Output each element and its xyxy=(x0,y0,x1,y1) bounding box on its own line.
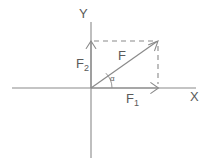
vector-diagram: Y X F F1 F2 α xyxy=(0,0,211,167)
f1-vector xyxy=(91,83,159,94)
f1-vector-label: F1 xyxy=(126,92,139,105)
f1-vector-label-subscript: 1 xyxy=(134,98,139,108)
f1-vector-label-base: F xyxy=(126,91,134,106)
angle-label: α xyxy=(110,75,115,83)
f2-vector-label: F2 xyxy=(76,57,89,70)
f-vector-label: F xyxy=(118,49,126,62)
x-axis-label: X xyxy=(190,90,199,103)
y-axis-label: Y xyxy=(79,7,88,20)
f2-vector-label-base: F xyxy=(76,56,84,71)
diagram-canvas xyxy=(0,0,211,167)
f2-vector-label-subscript: 2 xyxy=(84,63,89,73)
